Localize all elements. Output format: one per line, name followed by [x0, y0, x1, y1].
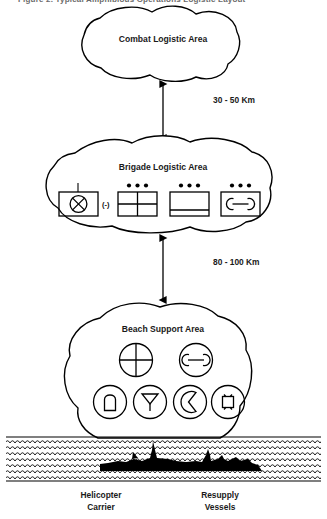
cut-off-figure-caption: Figure 2. Typical Amphibious Operations … — [0, 0, 327, 7]
helicopter-carrier-label-line2: Carrier — [87, 502, 115, 512]
beach-symbol-crosshair[interactable] — [120, 344, 153, 377]
logistics-diagram: Figure 2. Typical Amphibious Operations … — [0, 0, 327, 519]
echelon-dots-icon — [179, 183, 200, 187]
beach-support-area: Beach Support Area — [64, 303, 251, 438]
brigade-logistic-area: Brigade Logistic Area (-) — [46, 136, 272, 233]
brigade-logistic-area-outline — [46, 136, 272, 233]
echelon-dots-icon — [230, 183, 251, 187]
cut-off-figure-caption-text: Figure 2. Typical Amphibious Operations … — [18, 0, 245, 4]
brigade-logistic-area-label: Brigade Logistic Area — [119, 162, 208, 172]
distance-upper-label: 30 - 50 Km — [213, 95, 255, 105]
combat-logistic-area: Combat Logistic Area — [82, 6, 240, 81]
beach-support-area-label: Beach Support Area — [122, 324, 205, 334]
diagram-canvas: Combat Logistic Area 30 - 50 Km Brigade … — [0, 0, 327, 519]
supply-point-size-modifier: (-) — [102, 200, 110, 209]
distance-lower-label: 80 - 100 Km — [213, 257, 260, 267]
helicopter-carrier-label-line1: Helicopter — [81, 490, 123, 500]
resupply-vessels-label-line2: Vessels — [205, 502, 236, 512]
sea-region — [6, 437, 321, 481]
ship-labels: Helicopter Carrier Resupply Vessels — [81, 490, 240, 512]
echelon-dots-icon — [127, 183, 148, 187]
combat-logistic-area-label: Combat Logistic Area — [119, 34, 208, 44]
resupply-vessels-label-line1: Resupply — [201, 490, 239, 500]
